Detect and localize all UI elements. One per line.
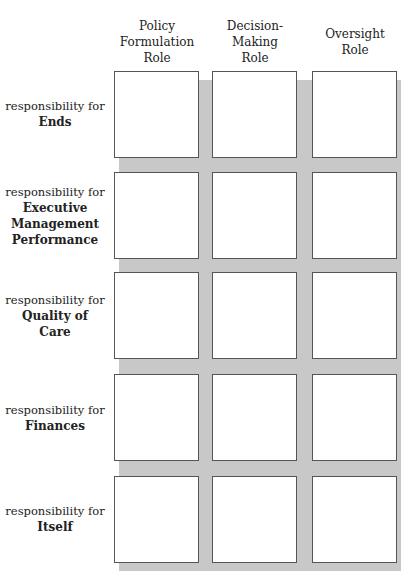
row-title: Quality of [0, 308, 110, 324]
row-title: Finances [0, 418, 110, 434]
row-label-finances: responsibility for Finances [0, 402, 110, 434]
grid-cell [212, 71, 297, 158]
header-line: Making [210, 34, 300, 50]
grid-cell [114, 172, 199, 259]
column-header-oversight: Oversight Role [310, 26, 400, 58]
row-prefix: responsibility for [5, 293, 104, 307]
grid-cell [212, 172, 297, 259]
grid-cell [114, 272, 199, 359]
grid-cell [312, 71, 397, 158]
row-label-itself: responsibility for Itself [0, 503, 110, 535]
header-line: Policy [112, 18, 202, 34]
row-title: Performance [0, 232, 110, 248]
header-line: Role [210, 50, 300, 66]
grid-cell [312, 172, 397, 259]
row-prefix: responsibility for [5, 504, 104, 518]
row-prefix: responsibility for [5, 99, 104, 113]
header-line: Oversight [310, 26, 400, 42]
row-label-quality: responsibility for Quality of Care [0, 292, 110, 340]
grid-cell [212, 374, 297, 461]
grid-cell [312, 476, 397, 563]
row-title: Executive [0, 200, 110, 216]
grid-cell [114, 71, 199, 158]
grid-cell [114, 374, 199, 461]
header-line: Decision- [210, 18, 300, 34]
row-prefix: responsibility for [5, 185, 104, 199]
grid-cell [312, 272, 397, 359]
row-title: Care [0, 324, 110, 340]
column-header-policy: Policy Formulation Role [112, 18, 202, 66]
grid-cell [114, 476, 199, 563]
row-title: Management [0, 216, 110, 232]
row-title: Ends [0, 114, 110, 130]
row-prefix: responsibility for [5, 403, 104, 417]
header-line: Role [112, 50, 202, 66]
column-header-decision: Decision- Making Role [210, 18, 300, 66]
header-line: Formulation [112, 34, 202, 50]
row-label-executive: responsibility for Executive Management … [0, 184, 110, 248]
row-label-ends: responsibility for Ends [0, 98, 110, 130]
grid-cell [212, 272, 297, 359]
grid-cell [212, 476, 297, 563]
grid-cell [312, 374, 397, 461]
row-title: Itself [0, 519, 110, 535]
header-line: Role [310, 42, 400, 58]
